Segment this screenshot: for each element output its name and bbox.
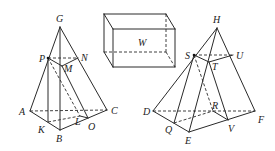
label-M: M xyxy=(63,63,73,74)
point-P xyxy=(47,57,50,60)
label-R: R xyxy=(211,100,218,111)
edge-BC xyxy=(60,110,107,130)
edge-HE xyxy=(189,28,217,132)
left-pyramid xyxy=(30,27,107,130)
edge-HF xyxy=(217,28,255,111)
segment-QR-hidden xyxy=(174,111,213,123)
edge-HD xyxy=(153,28,217,111)
label-D: D xyxy=(142,106,151,117)
edge-GA xyxy=(30,27,60,111)
right-pyramid xyxy=(153,28,255,132)
label-A: A xyxy=(18,106,26,117)
label-T: T xyxy=(212,61,219,72)
segment-SQ xyxy=(174,55,194,123)
geometry-figure: G P N M A K B C L O W xyxy=(0,0,275,151)
label-N: N xyxy=(80,52,89,63)
label-K: K xyxy=(37,124,46,135)
edge-AC-hidden xyxy=(30,110,107,111)
box-top-right xyxy=(166,14,175,29)
box-bottom-right-hidden xyxy=(166,52,175,67)
label-V: V xyxy=(228,123,236,134)
label-F: F xyxy=(257,114,265,125)
label-E: E xyxy=(184,135,191,146)
box-top-left xyxy=(104,14,113,29)
box-bottom-left xyxy=(104,52,113,67)
label-W: W xyxy=(138,37,148,48)
label-L: L xyxy=(74,116,81,127)
label-Q: Q xyxy=(165,124,173,135)
label-B: B xyxy=(56,133,62,144)
label-O: O xyxy=(88,121,95,132)
edge-EF xyxy=(189,111,255,132)
label-C: C xyxy=(111,105,118,116)
label-U: U xyxy=(236,50,244,61)
label-H: H xyxy=(212,14,221,25)
label-P: P xyxy=(38,53,45,64)
label-G: G xyxy=(56,13,63,24)
point-S xyxy=(193,54,196,57)
label-S: S xyxy=(185,50,190,61)
